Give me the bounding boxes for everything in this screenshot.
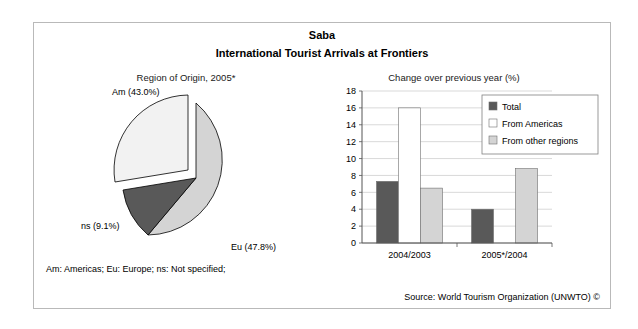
- pie-chart-svg: [74, 85, 314, 265]
- figure-subtitle: International Tourist Arrivals at Fronti…: [34, 47, 610, 59]
- figure-container: Saba International Tourist Arrivals at F…: [33, 22, 611, 309]
- legend-swatch: [489, 119, 497, 127]
- x-category-label: 2004/2003: [388, 250, 431, 260]
- y-tick-label: 18: [346, 86, 356, 96]
- bar: [421, 188, 443, 243]
- y-tick-label: 2: [351, 221, 356, 231]
- x-category-label: 2005*/2004: [481, 250, 527, 260]
- page-title: Saba: [34, 29, 610, 41]
- legend-label: From other regions: [502, 136, 579, 146]
- bar: [516, 169, 538, 243]
- y-tick-label: 10: [346, 154, 356, 164]
- bar-chart-caption: Change over previous year (%): [344, 72, 564, 83]
- legend-label: Total: [502, 102, 521, 112]
- pie-slice-am: [114, 95, 188, 182]
- y-axis-ticks: 024681012141618: [346, 86, 362, 248]
- chart-legend: TotalFrom AmericasFrom other regions: [482, 95, 598, 154]
- y-tick-label: 12: [346, 137, 356, 147]
- footnote: Am: Americas; Eu: Europe; ns: Not specif…: [46, 264, 226, 274]
- y-tick-label: 8: [351, 171, 356, 181]
- bar-chart-svg: 024681012141618 2004/20032005*/2004 Tota…: [334, 85, 604, 285]
- y-tick-label: 16: [346, 103, 356, 113]
- pie-label-am: Am (43.0%): [112, 87, 160, 97]
- legend-swatch: [489, 102, 497, 110]
- source-attribution: Source: World Tourism Organization (UNWT…: [404, 292, 600, 302]
- pie-chart: Am (43.0%) Eu (47.8%) ns (9.1%): [74, 85, 314, 265]
- pie-chart-caption: Region of Origin, 2005*: [86, 72, 286, 83]
- legend-label: From Americas: [502, 119, 563, 129]
- legend-swatch: [489, 136, 497, 144]
- pie-label-ns: ns (9.1%): [81, 221, 120, 231]
- pie-label-eu: Eu (47.8%): [231, 242, 276, 252]
- y-tick-label: 14: [346, 120, 356, 130]
- x-axis-category-labels: 2004/20032005*/2004: [388, 243, 552, 260]
- y-tick-label: 4: [351, 204, 356, 214]
- y-tick-label: 0: [351, 238, 356, 248]
- bar-chart: 024681012141618 2004/20032005*/2004 Tota…: [334, 85, 604, 285]
- bar: [377, 181, 399, 243]
- bar: [399, 108, 421, 243]
- y-tick-label: 6: [351, 188, 356, 198]
- bar: [472, 209, 494, 243]
